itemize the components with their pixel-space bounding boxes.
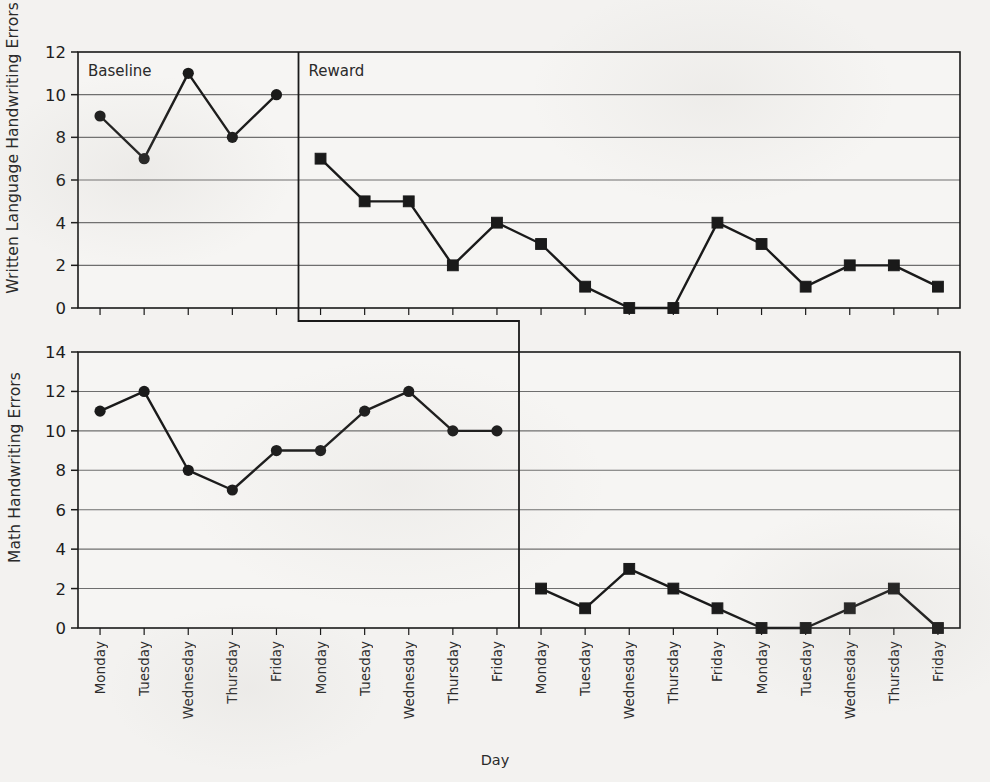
data-point-circle <box>139 386 150 397</box>
x-tick-label: Friday <box>268 641 284 682</box>
x-tick-label: Wednesday <box>401 641 417 719</box>
x-tick-label: Friday <box>930 641 946 682</box>
data-point-square <box>492 217 503 228</box>
chart-panel-top: 024681012BaselineReward <box>45 43 960 318</box>
y-tick-label: 2 <box>56 580 67 599</box>
y-tick-label: 0 <box>56 619 67 638</box>
data-point-circle <box>227 484 238 495</box>
x-axis-label: Day <box>0 752 990 768</box>
y-tick-label: 8 <box>56 461 67 480</box>
x-tick-label: Wednesday <box>621 641 637 719</box>
x-tick-label: Thursday <box>886 641 902 704</box>
data-point-square <box>403 196 414 207</box>
y-tick-label: 10 <box>45 422 66 441</box>
phase-label: Baseline <box>88 62 152 80</box>
data-point-circle <box>94 110 105 121</box>
x-tick-label: Monday <box>754 641 770 694</box>
x-tick-label: Monday <box>313 641 329 694</box>
y-tick-label: 12 <box>45 43 66 62</box>
x-tick-label: Friday <box>709 641 725 682</box>
data-point-square <box>712 217 723 228</box>
data-point-square <box>359 196 370 207</box>
data-point-circle <box>447 425 458 436</box>
data-point-circle <box>94 406 105 417</box>
y-tick-label: 14 <box>45 343 66 362</box>
x-tick-label: Tuesday <box>577 641 593 696</box>
data-point-circle <box>271 89 282 100</box>
phase-label: Reward <box>309 62 365 80</box>
y-tick-label: 12 <box>45 382 66 401</box>
data-point-square <box>580 603 591 614</box>
data-point-square <box>888 260 899 271</box>
data-point-circle <box>183 68 194 79</box>
data-point-square <box>536 239 547 250</box>
x-tick-label: Tuesday <box>798 641 814 696</box>
multiple-baseline-chart: 024681012BaselineReward02468101214 <box>0 0 990 640</box>
y-tick-label: 0 <box>56 299 67 318</box>
data-point-square <box>844 603 855 614</box>
data-point-square <box>712 603 723 614</box>
data-point-circle <box>359 406 370 417</box>
y-tick-label: 8 <box>56 128 67 147</box>
x-tick-label: Thursday <box>224 641 240 704</box>
data-point-square <box>315 153 326 164</box>
data-point-circle <box>183 465 194 476</box>
data-point-square <box>844 260 855 271</box>
data-point-circle <box>403 386 414 397</box>
data-point-square <box>888 583 899 594</box>
y-tick-label: 4 <box>56 214 67 233</box>
x-tick-label: Wednesday <box>180 641 196 719</box>
y-tick-label: 6 <box>56 171 67 190</box>
chart-panel-bottom: 02468101214 <box>45 343 960 638</box>
data-point-circle <box>139 153 150 164</box>
data-point-square <box>624 563 635 574</box>
x-tick-label: Tuesday <box>136 641 152 696</box>
x-tick-label: Monday <box>92 641 108 694</box>
data-point-square <box>756 623 767 634</box>
data-point-circle <box>227 132 238 143</box>
data-point-square <box>933 623 944 634</box>
x-tick-label: Friday <box>489 641 505 682</box>
y-tick-label: 6 <box>56 501 67 520</box>
data-point-square <box>536 583 547 594</box>
data-point-square <box>756 239 767 250</box>
data-point-square <box>580 281 591 292</box>
x-tick-label: Monday <box>533 641 549 694</box>
x-tick-label: Thursday <box>665 641 681 704</box>
data-point-square <box>624 303 635 314</box>
data-point-square <box>800 623 811 634</box>
x-tick-label: Tuesday <box>357 641 373 696</box>
x-tick-label: Thursday <box>445 641 461 704</box>
data-point-circle <box>271 445 282 456</box>
y-tick-label: 2 <box>56 256 67 275</box>
y-tick-label: 4 <box>56 540 67 559</box>
data-point-square <box>933 281 944 292</box>
data-point-square <box>668 583 679 594</box>
data-point-circle <box>491 425 502 436</box>
data-point-square <box>800 281 811 292</box>
y-tick-label: 10 <box>45 86 66 105</box>
data-point-circle <box>315 445 326 456</box>
figure-page: Written Language Handwriting Errors Math… <box>0 0 990 782</box>
data-point-square <box>447 260 458 271</box>
x-tick-label: Wednesday <box>842 641 858 719</box>
data-point-square <box>668 303 679 314</box>
